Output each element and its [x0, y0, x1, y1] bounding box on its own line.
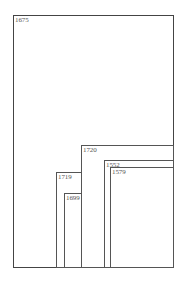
rect-label-1719: 1719 [58, 173, 72, 181]
rect-label-1675: 1675 [15, 16, 29, 24]
rect-label-1579: 1579 [112, 168, 126, 176]
rect-1579: 1579 [110, 167, 174, 268]
nested-rectangles-diagram: 1675 1720 1719 1699 1552 1579 [0, 0, 185, 284]
rect-label-1720: 1720 [83, 146, 97, 154]
rect-1699: 1699 [64, 193, 82, 268]
rect-label-1699: 1699 [66, 194, 80, 202]
